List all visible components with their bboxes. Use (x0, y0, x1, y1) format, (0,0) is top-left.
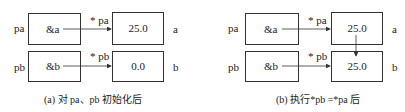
star-pb-label: * pb (90, 50, 109, 62)
b-box: 25.0 (331, 51, 383, 82)
pb-label: pb (228, 61, 239, 73)
b-label: b (392, 61, 398, 73)
a-box: 25.0 (112, 12, 164, 45)
pb-content: &b (46, 60, 60, 72)
pb-content: &b (264, 60, 278, 72)
pa-content: &a (264, 23, 277, 35)
b-label: b (173, 61, 179, 73)
caption-a: (a) 对 pa、pb 初始化后 (44, 91, 142, 106)
pa-label: pa (14, 22, 24, 34)
pb-label: pb (14, 61, 25, 73)
star-pb-label: * pb (308, 50, 327, 62)
a-label: a (392, 23, 397, 35)
pa-content: &a (46, 23, 59, 35)
star-pa-label: * pa (308, 14, 327, 26)
b-box: 0.0 (112, 51, 164, 82)
caption-b: (b) 执行*pb =*pa 后 (276, 91, 360, 106)
a-label: a (173, 23, 178, 35)
pa-label: pa (228, 22, 238, 34)
a-box: 25.0 (331, 12, 383, 45)
star-pa-label: * pa (90, 14, 109, 26)
